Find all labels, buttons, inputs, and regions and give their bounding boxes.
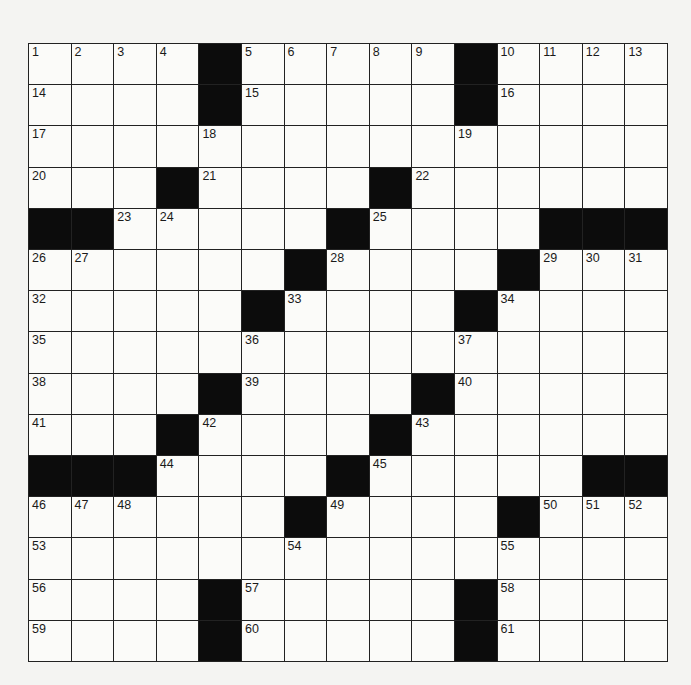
grid-cell[interactable] xyxy=(412,332,454,372)
grid-cell[interactable] xyxy=(540,85,582,125)
grid-cell[interactable] xyxy=(498,456,540,496)
grid-cell[interactable] xyxy=(370,332,412,372)
grid-cell[interactable] xyxy=(327,291,369,331)
grid-cell[interactable] xyxy=(285,374,327,414)
grid-cell[interactable] xyxy=(583,126,625,166)
grid-cell[interactable] xyxy=(157,621,199,661)
grid-cell[interactable] xyxy=(114,374,156,414)
grid-cell[interactable] xyxy=(412,580,454,620)
grid-cell[interactable]: 57 xyxy=(242,580,284,620)
grid-cell[interactable]: 55 xyxy=(498,538,540,578)
grid-cell[interactable] xyxy=(370,250,412,290)
grid-cell[interactable] xyxy=(242,250,284,290)
grid-cell[interactable] xyxy=(72,332,114,372)
grid-cell[interactable] xyxy=(370,580,412,620)
grid-cell[interactable] xyxy=(114,168,156,208)
grid-cell[interactable] xyxy=(157,126,199,166)
grid-cell[interactable] xyxy=(498,168,540,208)
grid-cell[interactable] xyxy=(285,85,327,125)
grid-cell[interactable]: 32 xyxy=(29,291,71,331)
grid-cell[interactable] xyxy=(412,621,454,661)
grid-cell[interactable]: 26 xyxy=(29,250,71,290)
grid-cell[interactable]: 43 xyxy=(412,415,454,455)
grid-cell[interactable] xyxy=(114,332,156,372)
grid-cell[interactable] xyxy=(412,250,454,290)
grid-cell[interactable] xyxy=(583,291,625,331)
grid-cell[interactable] xyxy=(157,374,199,414)
grid-cell[interactable] xyxy=(285,415,327,455)
grid-cell[interactable] xyxy=(583,415,625,455)
grid-cell[interactable] xyxy=(199,497,241,537)
grid-cell[interactable] xyxy=(327,580,369,620)
grid-cell[interactable]: 48 xyxy=(114,497,156,537)
grid-cell[interactable] xyxy=(625,332,667,372)
grid-cell[interactable]: 19 xyxy=(455,126,497,166)
grid-cell[interactable] xyxy=(498,374,540,414)
grid-cell[interactable] xyxy=(199,332,241,372)
grid-cell[interactable] xyxy=(327,126,369,166)
grid-cell[interactable] xyxy=(114,85,156,125)
grid-cell[interactable] xyxy=(114,126,156,166)
grid-cell[interactable]: 51 xyxy=(583,497,625,537)
grid-cell[interactable]: 10 xyxy=(498,44,540,84)
grid-cell[interactable] xyxy=(370,85,412,125)
grid-cell[interactable] xyxy=(285,621,327,661)
grid-cell[interactable] xyxy=(498,126,540,166)
grid-cell[interactable] xyxy=(625,621,667,661)
grid-cell[interactable] xyxy=(412,85,454,125)
grid-cell[interactable] xyxy=(285,456,327,496)
grid-cell[interactable] xyxy=(625,85,667,125)
grid-cell[interactable]: 17 xyxy=(29,126,71,166)
grid-cell[interactable] xyxy=(199,538,241,578)
grid-cell[interactable]: 14 xyxy=(29,85,71,125)
grid-cell[interactable] xyxy=(114,250,156,290)
grid-cell[interactable] xyxy=(157,250,199,290)
grid-cell[interactable]: 12 xyxy=(583,44,625,84)
grid-cell[interactable] xyxy=(72,580,114,620)
grid-cell[interactable]: 1 xyxy=(29,44,71,84)
grid-cell[interactable] xyxy=(285,209,327,249)
grid-cell[interactable] xyxy=(157,332,199,372)
grid-cell[interactable]: 38 xyxy=(29,374,71,414)
grid-cell[interactable]: 52 xyxy=(625,497,667,537)
grid-cell[interactable] xyxy=(72,374,114,414)
grid-cell[interactable] xyxy=(498,332,540,372)
grid-cell[interactable]: 33 xyxy=(285,291,327,331)
grid-cell[interactable] xyxy=(157,580,199,620)
grid-cell[interactable] xyxy=(327,415,369,455)
grid-cell[interactable] xyxy=(242,168,284,208)
grid-cell[interactable] xyxy=(72,621,114,661)
grid-cell[interactable] xyxy=(540,291,582,331)
grid-cell[interactable] xyxy=(412,497,454,537)
grid-cell[interactable]: 13 xyxy=(625,44,667,84)
grid-cell[interactable] xyxy=(72,126,114,166)
grid-cell[interactable]: 42 xyxy=(199,415,241,455)
grid-cell[interactable] xyxy=(157,497,199,537)
grid-cell[interactable] xyxy=(327,332,369,372)
grid-cell[interactable] xyxy=(583,580,625,620)
grid-cell[interactable] xyxy=(583,621,625,661)
grid-cell[interactable]: 4 xyxy=(157,44,199,84)
grid-cell[interactable] xyxy=(455,497,497,537)
grid-cell[interactable] xyxy=(114,580,156,620)
grid-cell[interactable] xyxy=(114,621,156,661)
grid-cell[interactable]: 37 xyxy=(455,332,497,372)
grid-cell[interactable]: 16 xyxy=(498,85,540,125)
grid-cell[interactable] xyxy=(625,538,667,578)
grid-cell[interactable] xyxy=(498,415,540,455)
grid-cell[interactable] xyxy=(540,332,582,372)
grid-cell[interactable] xyxy=(498,209,540,249)
grid-cell[interactable] xyxy=(583,538,625,578)
grid-cell[interactable]: 59 xyxy=(29,621,71,661)
grid-cell[interactable]: 27 xyxy=(72,250,114,290)
grid-cell[interactable]: 18 xyxy=(199,126,241,166)
grid-cell[interactable] xyxy=(199,291,241,331)
grid-cell[interactable]: 54 xyxy=(285,538,327,578)
grid-cell[interactable] xyxy=(540,415,582,455)
grid-cell[interactable]: 22 xyxy=(412,168,454,208)
grid-cell[interactable] xyxy=(370,374,412,414)
grid-cell[interactable] xyxy=(583,374,625,414)
grid-cell[interactable] xyxy=(540,580,582,620)
grid-cell[interactable]: 50 xyxy=(540,497,582,537)
grid-cell[interactable]: 44 xyxy=(157,456,199,496)
